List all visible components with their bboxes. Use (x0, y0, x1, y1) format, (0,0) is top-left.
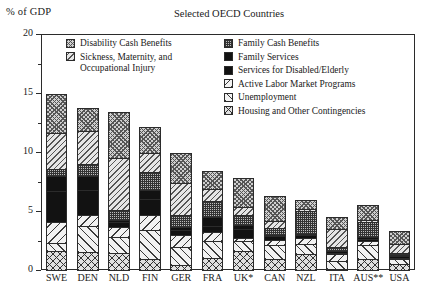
y-tick-label: 20 (23, 27, 33, 38)
x-tick-label: USA (384, 272, 415, 283)
legend-label: Unemployment (238, 92, 296, 103)
legend-item[interactable]: Disability Cash Benefits (66, 38, 216, 49)
bar-segment (295, 211, 317, 235)
bar-segment (77, 252, 99, 271)
bar-segment (46, 251, 68, 271)
bar-segment (139, 230, 161, 261)
bar-segment (77, 131, 99, 165)
legend-column-right: Family Cash BenefitsFamily ServicesServi… (224, 38, 410, 119)
bar-segment (139, 153, 161, 173)
bar-fra[interactable] (202, 171, 224, 270)
bar-segment (326, 229, 348, 248)
bar-usa[interactable] (389, 231, 411, 270)
bar-segment (139, 127, 161, 154)
legend-label: Family Services (238, 52, 299, 63)
chart-title: Selected OECD Countries (0, 8, 422, 19)
legend-item[interactable]: Unemployment (224, 92, 410, 103)
legend-label: Sickness, Maternity, and Occupational In… (80, 52, 172, 74)
bar-segment (170, 247, 192, 266)
bar-segment (357, 205, 379, 222)
bar-segment (139, 172, 161, 191)
legend-label: Services for Disabled/Elderly (238, 65, 349, 76)
legend-swatch-icon (224, 93, 233, 102)
bar-nld[interactable] (108, 112, 130, 270)
x-tick-label: ITA (322, 272, 353, 283)
bar-segment (170, 265, 192, 271)
y-tick-label: 5 (28, 204, 33, 215)
bar-aus[interactable] (357, 205, 379, 270)
x-tick-label: SWE (41, 272, 72, 283)
x-tick-label: FIN (135, 272, 166, 283)
legend-label: Disability Cash Benefits (80, 38, 172, 49)
bar-den[interactable] (77, 108, 99, 270)
x-tick-label: UK* (228, 272, 259, 283)
legend-swatch-icon (224, 106, 233, 115)
bar-segment (77, 108, 99, 132)
bar-segment (264, 259, 286, 271)
bar-ger[interactable] (170, 153, 192, 270)
bar-segment (233, 178, 255, 209)
bar-segment (264, 196, 286, 222)
bar-nzl[interactable] (295, 200, 317, 270)
bar-segment (77, 190, 99, 216)
bar-segment (202, 201, 224, 219)
x-tick-label: NZL (290, 272, 321, 283)
x-tick-label: DEN (72, 272, 103, 283)
bar-segment (357, 259, 379, 271)
bar-segment (77, 176, 99, 191)
legend-swatch-icon (224, 66, 233, 75)
bar-segment (139, 259, 161, 271)
y-tick-label: 0 (28, 263, 33, 274)
y-tick-label: 15 (23, 86, 33, 97)
bar-can[interactable] (264, 196, 286, 270)
legend-item[interactable]: Family Cash Benefits (224, 38, 410, 49)
y-tick-mark (36, 270, 41, 271)
legend-item[interactable]: Services for Disabled/Elderly (224, 65, 410, 76)
legend-item[interactable]: Housing and Other Contingencies (224, 106, 410, 117)
bar-segment (295, 254, 317, 271)
bar-segment (46, 176, 68, 193)
x-tick-label: FRA (197, 272, 228, 283)
bar-segment (202, 258, 224, 271)
bar-segment (357, 245, 379, 260)
stacked-bar-chart: % of GDP Selected OECD Countries 0510152… (0, 0, 422, 308)
x-tick-label: AUS** (353, 272, 384, 283)
bar-segment (46, 222, 68, 243)
legend-item[interactable]: Active Labor Market Programs (224, 79, 410, 90)
bar-segment (77, 226, 99, 253)
bar-uk[interactable] (233, 178, 255, 270)
x-axis: SWEDENNLDFINGERFRAUK*CANNZLITAAUS**USA (41, 272, 415, 292)
bar-segment (264, 245, 286, 260)
bar-segment (108, 158, 130, 211)
legend-label: Active Labor Market Programs (238, 79, 355, 90)
bar-segment (46, 191, 68, 223)
legend-swatch-icon (224, 52, 233, 61)
bar-ita[interactable] (326, 217, 348, 270)
bar-segment (46, 94, 68, 134)
bar-segment (357, 222, 379, 239)
legend-item[interactable]: Family Services (224, 52, 410, 63)
bar-segment (233, 251, 255, 271)
legend-swatch-icon (66, 39, 75, 48)
legend-swatch-icon (224, 79, 233, 88)
x-tick-label: CAN (259, 272, 290, 283)
bar-swe[interactable] (46, 94, 68, 270)
x-tick-label: NLD (103, 272, 134, 283)
x-tick-label: GER (166, 272, 197, 283)
bar-segment (108, 253, 130, 271)
legend-label: Housing and Other Contingencies (238, 106, 365, 117)
bar-segment (389, 231, 411, 245)
legend-item[interactable]: Sickness, Maternity, and Occupational In… (66, 52, 216, 74)
bar-fin[interactable] (139, 127, 161, 270)
bar-segment (108, 237, 130, 255)
y-axis: 05101520 (0, 28, 41, 276)
bar-segment (139, 215, 161, 230)
bar-segment (170, 183, 192, 216)
bar-segment (389, 264, 411, 271)
bar-segment (202, 171, 224, 190)
bar-segment (170, 153, 192, 184)
bar-segment (139, 199, 161, 217)
bar-segment (202, 241, 224, 259)
legend-label: Family Cash Benefits (238, 38, 319, 49)
legend-swatch-icon (66, 52, 75, 61)
